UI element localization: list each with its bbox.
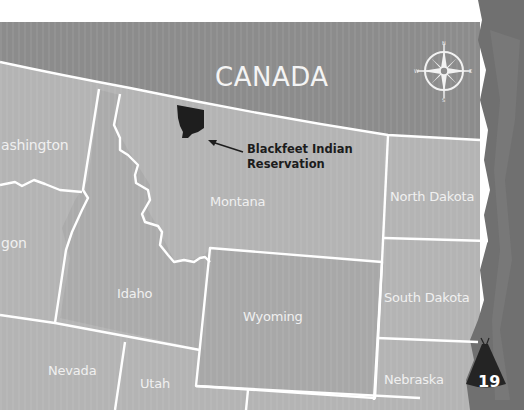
compass-w: W (414, 68, 419, 74)
state-label-oregon: gon (1, 235, 27, 251)
state-label-north-dakota: North Dakota (390, 189, 474, 204)
callout-line-1: Blackfeet Indian (247, 142, 353, 157)
state-label-washington: ashington (1, 137, 69, 153)
state-label-montana: Montana (210, 194, 265, 209)
state-label-wyoming: Wyoming (243, 309, 303, 324)
canada-label: CANADA (215, 62, 329, 92)
state-label-utah: Utah (140, 376, 170, 391)
compass-n: N (442, 40, 446, 46)
callout-line-2: Reservation (247, 157, 353, 172)
state-label-nebraska: Nebraska (384, 372, 444, 387)
page-number: 19 (478, 372, 500, 391)
compass-e: E (469, 68, 472, 74)
reservation-callout: Blackfeet Indian Reservation (247, 142, 353, 172)
state-label-nevada: Nevada (48, 363, 96, 378)
compass-s: S (442, 97, 445, 103)
state-label-south-dakota: South Dakota (384, 290, 470, 305)
state-label-idaho: Idaho (117, 286, 152, 301)
